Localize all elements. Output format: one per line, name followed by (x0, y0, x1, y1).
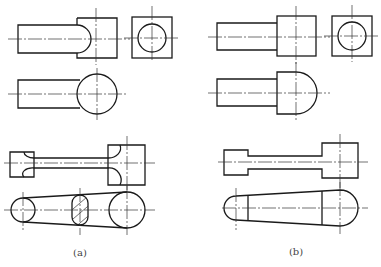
panel-a-label: (a) (73, 247, 87, 258)
panel-b-label: (b) (289, 246, 303, 257)
panel-b-side-view (324, 5, 380, 62)
panel-a-side-view (124, 6, 180, 62)
panel-b-rod-top (218, 134, 368, 190)
panel-b-lever-front (222, 182, 368, 234)
panel-a-rod-top (4, 136, 155, 192)
panel-a-rod-front (4, 185, 155, 245)
panel-a-front-view (8, 68, 128, 120)
panel-b-top-view (208, 6, 330, 64)
technical-drawing (0, 0, 381, 267)
panel-b-front-view (208, 62, 330, 120)
panel-a-top-view (8, 8, 130, 65)
